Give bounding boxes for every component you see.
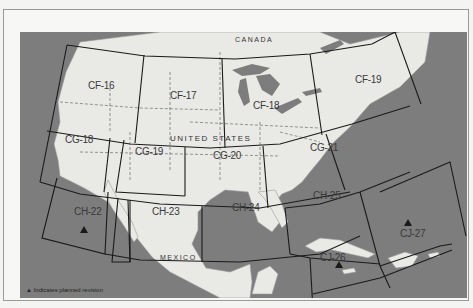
map-graphic [20, 32, 467, 298]
chart-label-cj-26[interactable]: CJ-26 [320, 252, 345, 263]
chart-label-ch-23[interactable]: CH-23 [152, 206, 179, 217]
chart-label-cf-16[interactable]: CF-16 [88, 80, 114, 91]
chart-coverage-map: CANADA UNITED STATES MEXICO CF-16 CF-17 … [20, 32, 467, 298]
chart-label-cg-20[interactable]: CG-20 [213, 150, 241, 161]
chart-label-cf-17[interactable]: CF-17 [170, 90, 196, 101]
chart-label-ch-22[interactable]: CH-22 [74, 206, 101, 217]
chart-label-cf-18[interactable]: CF-18 [253, 100, 279, 111]
label-united-states: UNITED STATES [170, 134, 251, 143]
chart-label-cf-19[interactable]: CF-19 [355, 74, 381, 85]
chart-label-cg-18[interactable]: CG-18 [65, 134, 93, 145]
chart-label-cg-19[interactable]: CG-19 [135, 146, 163, 157]
map-frame: CANADA UNITED STATES MEXICO CF-16 CF-17 … [3, 9, 469, 301]
label-canada: CANADA [235, 36, 273, 43]
legend-text: Indicates planned revision [34, 287, 103, 293]
chart-label-ch-24[interactable]: CH-24 [232, 202, 259, 213]
map-legend: ▲ Indicates planned revision [26, 287, 103, 293]
triangle-icon: ▲ [26, 287, 32, 293]
label-mexico: MEXICO [160, 254, 197, 261]
chart-label-ch-25[interactable]: CH-25 [313, 190, 340, 201]
chart-label-cj-27[interactable]: CJ-27 [400, 228, 425, 239]
chart-label-cg-21[interactable]: CG-21 [310, 142, 338, 153]
